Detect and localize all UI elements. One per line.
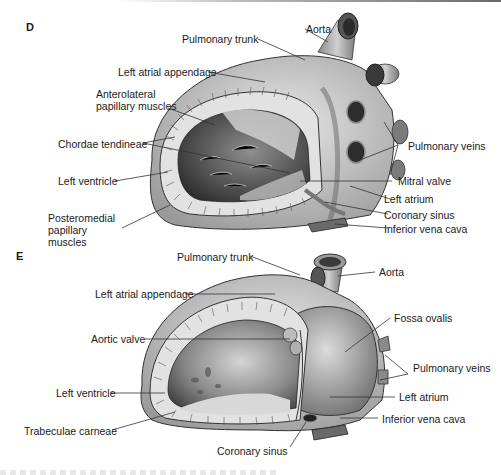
label-e-coronary-sinus: Coronary sinus (217, 445, 288, 457)
label-e-trabeculae-carneae: Trabeculae carneae (24, 425, 117, 437)
cropped-caption-fragment (0, 470, 280, 475)
heart-d (150, 13, 408, 232)
label-e-left-atrium: Left atrium (399, 391, 449, 403)
label-e-pulmonary-trunk: Pulmonary trunk (177, 251, 253, 263)
label-d-posteromedial-papillary-muscles: Posteromedial papillary muscles (48, 212, 128, 248)
label-d-anterolateral-papillary-muscles: Anterolateral papillary muscles (96, 88, 181, 112)
label-d-left-atrium: Left atrium (384, 193, 434, 205)
label-e-left-ventricle: Left ventricle (56, 387, 116, 399)
panel-letter-d: D (26, 21, 34, 33)
label-e-aorta: Aorta (379, 266, 404, 278)
label-d-coronary-sinus: Coronary sinus (384, 209, 455, 221)
label-e-inferior-vena-cava: Inferior vena cava (382, 413, 465, 425)
label-d-left-ventricle: Left ventricle (58, 175, 118, 187)
label-d-mitral-valve: Mitral valve (398, 175, 451, 187)
heart-e (141, 254, 390, 440)
panel-letter-e: E (16, 250, 23, 262)
label-d-inferior-vena-cava: Inferior vena cava (384, 223, 467, 235)
label-d-chordae-tendineae: Chordae tendineae (58, 138, 147, 150)
label-d-pulmonary-veins: Pulmonary veins (408, 140, 486, 152)
label-e-fossa-ovalis: Fossa ovalis (394, 312, 452, 324)
label-d-aorta: Aorta (306, 23, 331, 35)
label-d-left-atrial-appendage: Left atrial appendage (118, 66, 217, 78)
label-e-aortic-valve: Aortic valve (91, 333, 145, 345)
label-e-pulmonary-veins: Pulmonary veins (413, 362, 491, 374)
label-d-pulmonary-trunk: Pulmonary trunk (182, 33, 258, 45)
label-e-left-atrial-appendage: Left atrial appendage (95, 288, 194, 300)
